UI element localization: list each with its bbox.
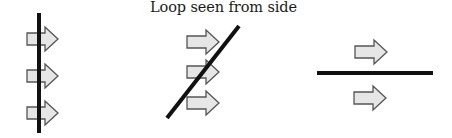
flux-diagram <box>0 0 452 138</box>
diagram-title: Loop seen from side <box>150 0 272 15</box>
field-arrow-icon <box>354 86 386 110</box>
field-arrow-icon <box>187 30 219 54</box>
panel-loop-tilted <box>167 26 239 118</box>
field-arrow-icon <box>27 101 58 125</box>
panel-loop-parallel <box>317 40 433 110</box>
field-arrow-icon <box>355 40 387 64</box>
field-arrow-icon <box>27 27 58 51</box>
panel-loop-perpendicular <box>27 13 58 133</box>
field-arrow-icon <box>187 91 219 115</box>
field-arrow-icon <box>27 64 58 88</box>
